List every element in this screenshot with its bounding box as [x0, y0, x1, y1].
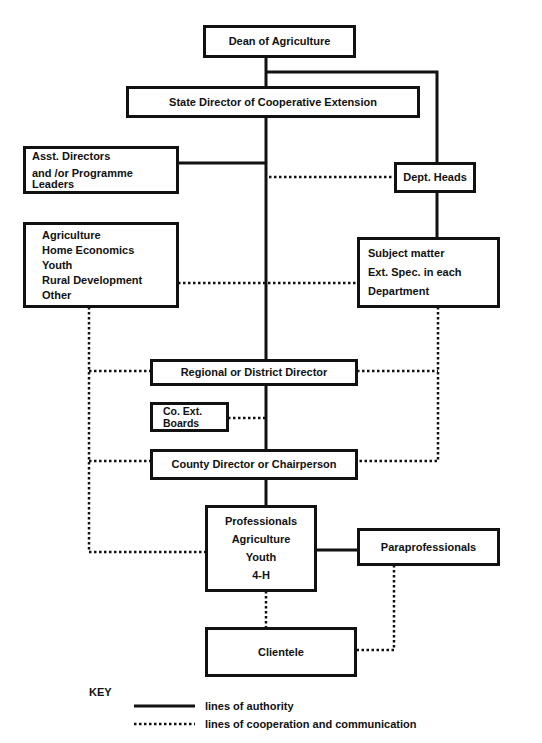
node-label: County Director or Chairperson [171, 459, 336, 470]
node-label-line: Rural Development [42, 275, 176, 286]
node-label-line: Youth [246, 552, 276, 563]
node-county-director: County Director or Chairperson [150, 449, 358, 480]
node-regional-director: Regional or District Director [150, 359, 358, 386]
node-label-line: Agriculture [42, 230, 176, 241]
node-label: State Director of Cooperative Extension [169, 97, 377, 108]
node-label-line: Ext. Spec. in each [368, 267, 497, 278]
node-program-areas: Agriculture Home Economics Youth Rural D… [23, 222, 179, 308]
node-label-line: 4-H [252, 570, 270, 581]
key-label-authority: lines of authority [205, 700, 294, 712]
node-label-line: Other [42, 290, 176, 301]
node-subject-matter: Subject matter Ext. Spec. in each Depart… [357, 237, 500, 308]
node-label-line: Youth [42, 260, 176, 271]
node-label: Paraprofessionals [381, 542, 476, 553]
node-label-line: Boards [163, 418, 226, 429]
node-label-line: Subject matter [368, 248, 497, 259]
node-label-line: Agriculture [232, 534, 291, 545]
node-label-line: Professionals [225, 516, 297, 527]
node-label: Regional or District Director [181, 367, 328, 378]
node-label: Dept. Heads [403, 172, 467, 183]
node-co-ext-boards: Co. Ext. Boards [150, 402, 229, 432]
node-label-line: Department [368, 286, 497, 297]
key-label-cooperation: lines of cooperation and communication [205, 718, 416, 730]
node-label-line: and /or Programme Leaders [32, 168, 176, 190]
node-label-line: Co. Ext. [163, 406, 226, 417]
key-title: KEY [89, 686, 112, 698]
node-asst-directors: Asst. Directors and /or Programme Leader… [23, 146, 179, 194]
node-label: Dean of Agriculture [229, 36, 331, 47]
node-dean: Dean of Agriculture [203, 25, 356, 58]
node-dept-heads: Dept. Heads [394, 162, 476, 193]
node-label-line: Home Economics [42, 245, 176, 256]
node-paraprofessionals: Paraprofessionals [357, 528, 500, 566]
node-state-director: State Director of Cooperative Extension [126, 86, 420, 118]
node-label: Clientele [258, 647, 304, 658]
node-clientele: Clientele [205, 627, 357, 677]
node-label-line: Asst. Directors [32, 151, 176, 162]
node-professionals: Professionals Agriculture Youth 4-H [205, 505, 317, 592]
